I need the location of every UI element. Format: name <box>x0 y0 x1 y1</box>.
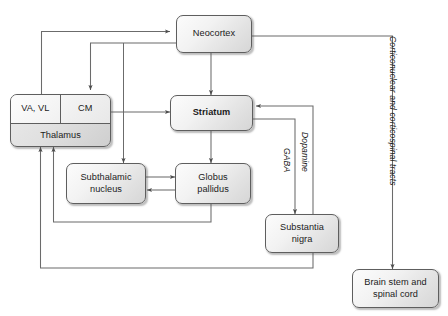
node-globus-pallidus-label: Globus pallidus <box>195 172 231 194</box>
edge-vavl-to-neocortex <box>42 32 171 95</box>
node-striatum[interactable]: Striatum <box>170 95 253 131</box>
node-thalamus-label: Thalamus <box>40 130 81 141</box>
node-substantia-nigra-label: Substantia nigra <box>278 222 326 244</box>
node-globus-pallidus-label-line1: Globus <box>198 172 227 182</box>
edge-neocortex-to-cm <box>91 43 177 90</box>
node-thalamus-label-row: Thalamus <box>11 124 110 147</box>
node-brain-stem-spinal-cord-label-line2: spinal cord <box>373 289 418 299</box>
node-substantia-nigra-label-line1: Substantia <box>280 222 324 232</box>
node-subthalamic-nucleus-label-line2: nucleus <box>90 184 122 194</box>
node-neocortex-label: Neocortex <box>191 28 237 39</box>
node-neocortex[interactable]: Neocortex <box>176 15 252 53</box>
node-brain-stem-spinal-cord[interactable]: Brain stem and spinal cord <box>352 269 439 308</box>
node-cm[interactable]: CM <box>61 95 111 123</box>
node-globus-pallidus[interactable]: Globus pallidus <box>175 163 251 204</box>
node-globus-pallidus-label-line2: pallidus <box>197 184 229 194</box>
thalamus-nuclei-row: VA, VL CM <box>11 95 110 124</box>
node-brain-stem-spinal-cord-label: Brain stem and spinal cord <box>362 277 429 299</box>
node-subthalamic-nucleus-label: Subthalamic nucleus <box>78 172 133 194</box>
basal-ganglia-diagram: Neocortex VA, VL CM Thalamus Striatum Su… <box>0 0 448 316</box>
node-va-vl-label: VA, VL <box>21 103 49 114</box>
edge-label-dopamine: Dopamine <box>300 132 310 172</box>
node-substantia-nigra[interactable]: Substantia nigra <box>265 214 339 253</box>
edge-label-gaba: GABA <box>282 148 292 172</box>
edge-label-corticonuclear-corticospinal-tracts: Corticonuclear and corticospinal tracts <box>388 36 398 186</box>
node-va-vl[interactable]: VA, VL <box>11 95 61 123</box>
node-subthalamic-nucleus-label-line1: Subthalamic <box>80 172 131 182</box>
node-substantia-nigra-label-line2: nigra <box>292 234 313 244</box>
node-subthalamic-nucleus[interactable]: Subthalamic nucleus <box>66 163 146 204</box>
node-brain-stem-spinal-cord-label-line1: Brain stem and <box>364 277 427 287</box>
node-cm-label: CM <box>78 103 92 114</box>
node-thalamus[interactable]: VA, VL CM Thalamus <box>10 94 111 147</box>
node-striatum-label: Striatum <box>191 107 233 118</box>
